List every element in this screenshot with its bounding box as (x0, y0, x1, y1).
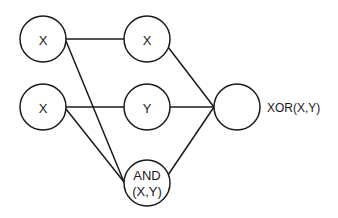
node-label: X (143, 33, 152, 48)
node-label-line1: AND (133, 168, 160, 183)
hidden-node-and: AND (X,Y) (124, 160, 170, 206)
edge-x1-to-and (66, 41, 124, 182)
input-node-x-top: X (20, 16, 66, 62)
edge-hidden-x-to-out (168, 47, 214, 107)
edge-and-to-out (168, 107, 214, 175)
output-node (214, 84, 260, 130)
hidden-node-y: Y (124, 84, 170, 130)
node-label: Y (143, 101, 152, 116)
node-label-line2: (X,Y) (132, 184, 162, 199)
xor-network-diagram: X X X Y AND (X,Y) XOR(X,Y) (0, 0, 338, 218)
hidden-node-x: X (124, 16, 170, 62)
node-label: X (39, 33, 48, 48)
input-node-x-bottom: X (20, 84, 66, 130)
output-label: XOR(X,Y) (267, 101, 320, 115)
edge-x2-to-and (66, 109, 124, 182)
node-label: X (39, 101, 48, 116)
